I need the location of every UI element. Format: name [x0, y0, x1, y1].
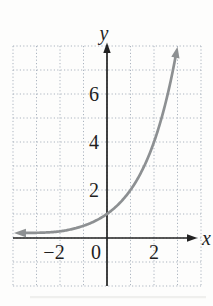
- curve-top-arrowhead-icon: [171, 47, 179, 59]
- exponential-graph-figure: yx−202246: [0, 0, 213, 306]
- x-axis-arrowhead-icon: [187, 234, 198, 241]
- curve-left-arrowhead-icon: [14, 229, 26, 237]
- y-tick-label: 6: [89, 83, 99, 105]
- x-tick-label: 0: [91, 241, 101, 263]
- graph-canvas: yx−202246: [0, 0, 213, 306]
- scan-shadow: [30, 296, 206, 298]
- x-tick-label: 2: [149, 241, 159, 263]
- x-tick-label: −2: [43, 241, 64, 263]
- y-tick-label: 2: [89, 179, 99, 201]
- y-tick-label: 4: [89, 131, 99, 153]
- y-axis-arrowhead-icon: [103, 43, 110, 54]
- function-curve: [26, 58, 175, 233]
- scan-artifacts: [30, 296, 206, 298]
- y-axis-label: y: [98, 22, 109, 45]
- x-axis-label: x: [201, 227, 211, 249]
